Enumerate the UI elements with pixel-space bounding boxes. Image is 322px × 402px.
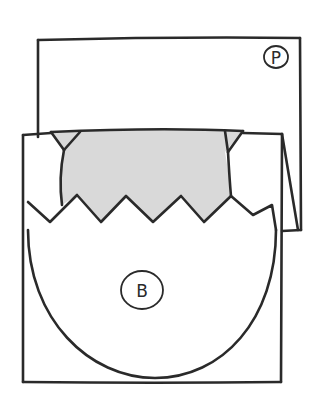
label-b: B [121,271,163,309]
gray-shaded-shape [51,129,243,222]
bowl-curve [28,230,276,378]
label-p: P [264,46,288,68]
label-p-text: P [271,48,281,68]
diagram-canvas: P B [0,0,322,402]
label-b-text: B [136,281,148,301]
